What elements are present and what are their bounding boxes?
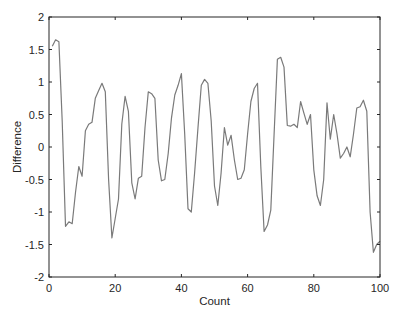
x-axis-label: Count: [199, 295, 230, 307]
y-tick-label: -0.5: [25, 174, 44, 186]
y-tick-labels: -2-1.5-1-0.500.511.52: [25, 11, 44, 283]
x-tick-label: 80: [308, 282, 320, 294]
x-tick-label: 0: [46, 282, 52, 294]
x-tick-label: 20: [109, 282, 121, 294]
y-tick-label: 1: [38, 76, 44, 88]
y-tick-label: 0.5: [29, 109, 44, 121]
line-chart: 020406080100 -2-1.5-1-0.500.511.52 Count…: [0, 0, 399, 321]
x-tick-label: 100: [371, 282, 389, 294]
y-tick-label: -1.5: [25, 239, 44, 251]
plot-area: [49, 17, 380, 277]
x-tick-label: 60: [241, 282, 253, 294]
y-tick-label: -2: [34, 271, 44, 283]
y-tick-label: 1.5: [29, 44, 44, 56]
y-tick-label: 0: [38, 141, 44, 153]
x-tick-label: 40: [175, 282, 187, 294]
x-tick-labels: 020406080100: [46, 282, 389, 294]
y-tick-label: -1: [34, 206, 44, 218]
y-tick-label: 2: [38, 11, 44, 23]
y-axis-label: Difference: [11, 121, 23, 173]
